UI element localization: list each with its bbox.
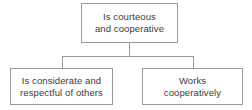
- connector-drop-to-child-2: [193, 56, 194, 68]
- node-child-works-cooperatively: Works cooperatively: [142, 68, 243, 105]
- connector-root-stem: [129, 43, 130, 57]
- connector-horizontal-bar: [62, 56, 194, 57]
- node-child-2-label: Works cooperatively: [161, 75, 224, 99]
- connector-drop-to-child-1: [62, 56, 63, 68]
- diagram-canvas: Is courteous and cooperative Is consider…: [0, 0, 252, 110]
- node-child-1-label: Is considerate and respectful of others: [17, 75, 106, 99]
- node-root-label: Is courteous and cooperative: [92, 11, 167, 35]
- node-child-considerate-respectful: Is considerate and respectful of others: [10, 68, 113, 105]
- node-root: Is courteous and cooperative: [81, 3, 178, 43]
